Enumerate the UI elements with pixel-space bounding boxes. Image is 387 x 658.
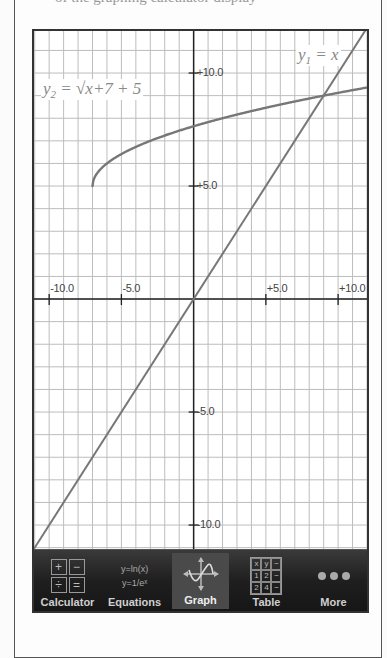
tab-label: More bbox=[320, 596, 346, 608]
y-axis-tick-label: +10.0 bbox=[197, 66, 223, 78]
y-axis-tick-label: +5.0 bbox=[197, 179, 218, 191]
tab-graph[interactable]: Graph bbox=[172, 553, 229, 609]
tab-calculator[interactable]: + − ÷ = Calculator bbox=[34, 550, 101, 611]
tab-label: Calculator bbox=[41, 596, 95, 608]
equation-label-y2: y2 = √x+7 + 5 bbox=[41, 79, 143, 100]
bottom-tab-bar: + − ÷ = Calculator y=ln(x) y=1/eˣ Equati… bbox=[34, 549, 367, 611]
tab-equations[interactable]: y=ln(x) y=1/eˣ Equations bbox=[101, 550, 168, 611]
tab-label: Equations bbox=[108, 596, 161, 608]
calculator-icon: + − ÷ = bbox=[51, 558, 85, 594]
calculator-screen: -10.0-5.0+5.0+10.0 +10.0+5.0-5.0-10.0 y1… bbox=[32, 29, 369, 613]
graph-canvas[interactable] bbox=[34, 31, 367, 549]
graph-plot[interactable]: -10.0-5.0+5.0+10.0 +10.0+5.0-5.0-10.0 y1… bbox=[34, 31, 367, 549]
tab-table[interactable]: x y − 1 2 − 2 4 − Table bbox=[233, 550, 300, 611]
y-axis-tick-label: -10.0 bbox=[197, 518, 221, 530]
table-icon: x y − 1 2 − 2 4 − bbox=[250, 558, 282, 594]
x-axis-tick-label: -10.0 bbox=[50, 282, 74, 294]
clipped-heading: of the graphing calculator display bbox=[55, 0, 355, 5]
tab-more[interactable]: More bbox=[300, 550, 367, 611]
tab-label: Table bbox=[253, 596, 281, 608]
graph-icon bbox=[181, 556, 221, 592]
equations-icon: y=ln(x) y=1/eˣ bbox=[121, 558, 148, 594]
tab-label: Graph bbox=[184, 594, 216, 606]
x-axis-tick-label: +10.0 bbox=[339, 282, 365, 294]
x-axis-tick-label: -5.0 bbox=[122, 282, 140, 294]
x-axis-tick-label: +5.0 bbox=[267, 282, 288, 294]
equation-label-y1: y1 = x bbox=[296, 45, 341, 66]
more-icon bbox=[318, 558, 350, 594]
y-axis-tick-label: -5.0 bbox=[197, 405, 215, 417]
